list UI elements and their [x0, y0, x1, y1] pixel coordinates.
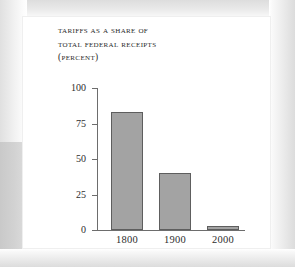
plot-area: 100 75 50 25 0 1800 1900 2000	[0, 0, 295, 267]
y-tick-label-50: 50	[48, 154, 86, 164]
y-tick-label-0: 0	[48, 225, 86, 235]
y-tick-0	[92, 230, 97, 231]
y-tick-label-75: 75	[48, 119, 86, 129]
y-tick-label-75-wrap: 75	[48, 119, 86, 129]
y-tick-label-25: 25	[48, 190, 86, 200]
y-tick-25	[92, 195, 97, 196]
x-tick-label-1900: 1900	[152, 233, 198, 246]
y-tick-label-100-wrap: 100	[48, 83, 86, 93]
y-axis-line	[97, 88, 98, 231]
x-tick-label-2000: 2000	[200, 233, 246, 246]
y-tick-label-50-wrap: 50	[48, 154, 86, 164]
bar-1900[interactable]	[159, 173, 191, 230]
y-tick-label-0-wrap: 0	[48, 225, 86, 235]
y-tick-100	[92, 88, 97, 89]
bar-1800[interactable]	[111, 112, 143, 230]
x-tick-label-1800: 1800	[104, 233, 150, 246]
y-tick-label-100: 100	[48, 83, 86, 93]
figure-page: Tariffs as a share of total federal rece…	[0, 0, 295, 267]
bar-2000[interactable]	[207, 226, 239, 230]
y-tick-50	[92, 159, 97, 160]
y-tick-75	[92, 124, 97, 125]
x-axis-line	[97, 230, 245, 231]
y-tick-label-25-wrap: 25	[48, 190, 86, 200]
